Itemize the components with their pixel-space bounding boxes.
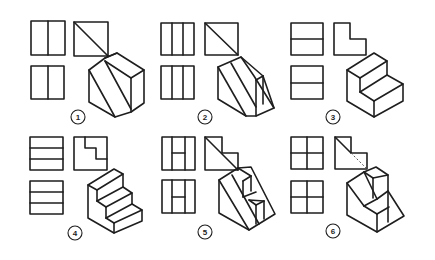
top-view [205, 23, 238, 55]
side-view [30, 181, 63, 214]
isometric-view [347, 167, 404, 232]
isometric-view [219, 167, 275, 230]
front-view [31, 21, 65, 55]
side-view [291, 66, 323, 99]
front-view [30, 137, 63, 170]
top-view [205, 137, 238, 170]
panel-number-badge: 3 [326, 110, 340, 124]
front-view [161, 23, 194, 55]
front-view [162, 137, 195, 170]
panel-number: 3 [331, 113, 336, 122]
top-view [335, 137, 367, 169]
front-view [291, 23, 323, 55]
panel-1: 1 [31, 21, 144, 124]
isometric-view [218, 57, 274, 116]
isometric-view [347, 53, 403, 117]
side-view [162, 180, 195, 213]
panel-number-badge: 4 [68, 226, 82, 240]
front-view [291, 137, 323, 169]
panel-4: 4 [30, 137, 142, 240]
panel-number-badge: 6 [326, 224, 340, 238]
side-view [161, 66, 194, 99]
diagram-svg: 1 [0, 0, 435, 260]
panel-number: 2 [203, 113, 208, 122]
top-view [74, 137, 107, 170]
side-view [291, 181, 323, 213]
isometric-view [89, 53, 144, 117]
panel-3: 3 [291, 23, 403, 124]
isometric-view [88, 169, 142, 233]
panel-number: 1 [76, 113, 81, 122]
panel-number-badge: 5 [198, 225, 212, 239]
panel-2: 2 [161, 23, 274, 124]
panel-number: 4 [73, 229, 78, 238]
panel-6: 6 [291, 137, 404, 238]
top-view [334, 23, 366, 55]
panel-5: 5 [162, 137, 275, 239]
panel-number: 5 [203, 228, 208, 237]
panel-number-badge: 1 [71, 110, 85, 124]
panel-number: 6 [331, 227, 336, 236]
figure-canvas: 1 [0, 0, 435, 260]
panel-number-badge: 2 [198, 110, 212, 124]
side-view [31, 66, 64, 99]
top-view [74, 22, 108, 56]
